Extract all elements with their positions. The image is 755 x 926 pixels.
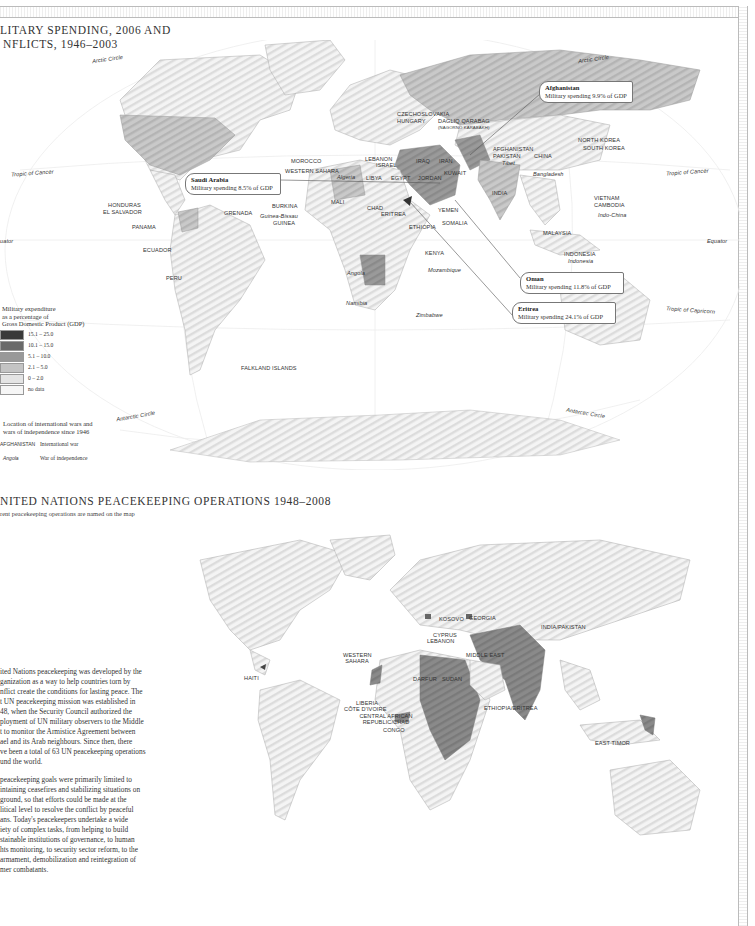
text-line: ployment of UN military observers to the… xyxy=(0,717,144,726)
independence-label-mozambique: Mozambique xyxy=(428,267,461,273)
legend-label: no data xyxy=(28,386,44,394)
callout-afghanistan: Afghanistan Military spending 9.9% of GD… xyxy=(539,81,633,103)
independence-label-zimbabwe: Zimbabwe xyxy=(416,312,443,318)
op-label-middle-east: MIDDLE EAST xyxy=(466,652,504,658)
war-label-kenya: KENYA xyxy=(425,250,444,256)
peacekeeping-description: ited Nations peacekeeping was developed … xyxy=(0,667,240,883)
war-label-mali: MALI xyxy=(331,199,344,205)
text-line: ited Nations peacekeeping was developed … xyxy=(0,667,142,676)
legend-heading: Military expenditure xyxy=(2,305,110,313)
callout-text: Military spending 11.8% of GDP xyxy=(526,283,611,290)
callout-text: Military spending 24.1% of GDP xyxy=(518,313,603,320)
war-label-panama: PANAMA xyxy=(132,224,156,230)
war-label-kuwait: KUWAIT xyxy=(444,170,466,176)
war-label-burkina: BURKINA xyxy=(272,203,298,209)
legend-label: 5.1 – 10.0 xyxy=(28,353,50,361)
war-label-yemen: YEMEN xyxy=(438,207,458,213)
legend-item: 2.1 – 5.0 xyxy=(0,363,110,374)
legend-swatch xyxy=(0,341,24,351)
header-decorative-bar xyxy=(0,6,745,18)
op-label-western-sahara: WESTERN SAHARA xyxy=(343,652,371,664)
op-label-central-african-republic-chad: CENTRAL AFRICAN REPUBLIC/CHAD xyxy=(356,713,416,725)
wars-legend-row: Angola War of independence xyxy=(0,455,110,463)
war-label-ethiopia: ETHIOPIA xyxy=(409,224,436,230)
war-label-eritrea: ERITREA xyxy=(381,211,406,217)
wars-legend-sample: Angola xyxy=(3,455,40,463)
text-line: hts monitoring, to security sector refor… xyxy=(0,845,138,854)
war-label-dagliq-qarabag: DAGLIQ QARABAG xyxy=(438,118,490,124)
war-label-malaysia: MALAYSIA xyxy=(543,230,571,236)
independence-label-namibia: Namibia xyxy=(346,300,367,306)
wars-legend-meaning: International war xyxy=(40,441,78,449)
war-label-nagorno-karabakh: (NAGORNO KARABAKH) xyxy=(438,125,489,130)
op-label-east-timor: EAST TIMOR xyxy=(595,740,630,746)
text-line: ael and its Arab neighbours. Since then,… xyxy=(0,737,132,746)
text-line: stainable institutions of governance, to… xyxy=(0,835,135,844)
op-label-ethiopia-eritrea: ETHIOPIA/ERITREA xyxy=(484,705,538,711)
legend-swatch xyxy=(0,330,24,340)
op-label-haiti: HAITI xyxy=(244,675,259,681)
legend-item: 10.1 – 15.0 xyxy=(0,341,110,352)
callout-eritrea: Eritrea Military spending 24.1% of GDP xyxy=(512,302,616,324)
wars-legend-sample: AFGHANISTAN xyxy=(0,441,40,449)
text-line: t to monitor the Armistice Agreement bet… xyxy=(0,727,135,736)
op-label-cote-divoire: CÔTE D'IVOIRE xyxy=(344,706,386,712)
independence-label-guinea-bissau: Guinea-Bissau xyxy=(260,213,298,219)
legend-label: 2.1 – 5.0 xyxy=(28,364,48,372)
war-label-honduras: HONDURAS xyxy=(108,202,141,208)
legend-heading: as a percentage of xyxy=(2,313,110,321)
op-label-darfur: DARFUR xyxy=(413,676,437,682)
war-label-peru: PERU xyxy=(166,275,182,281)
op-label-georgia: GEORGIA xyxy=(469,615,496,621)
text-line: armament, demobilization and reintegrati… xyxy=(0,855,136,864)
text-line: iety of complex tasks, from helping to b… xyxy=(0,825,128,834)
legend-heading: Gross Domestic Product (GDP) xyxy=(2,320,110,328)
callout-oman: Oman Military spending 11.8% of GDP xyxy=(520,272,624,294)
legend-label: 15.1 – 25.0 xyxy=(28,331,53,339)
legend-item: 5.1 – 10.0 xyxy=(0,352,110,363)
text-line: t UN peacekeeping mission was establishe… xyxy=(0,697,135,706)
text-line: intaining ceasefires and stabilizing sit… xyxy=(0,785,140,794)
paragraph-2: peacekeeping goals were primarily limite… xyxy=(0,775,240,875)
text-line: ground, so that efforts could be made at… xyxy=(0,795,127,804)
wars-legend-heading: Location of international wars and xyxy=(3,420,110,428)
wars-legend: Location of international wars and wars … xyxy=(0,420,110,462)
war-label-iraq: IRAQ xyxy=(416,158,430,164)
war-label-el-salvador: EL SALVADOR xyxy=(103,209,142,215)
legend-item: no data xyxy=(0,385,110,396)
callout-country: Oman xyxy=(526,275,618,283)
legend-swatch xyxy=(0,363,24,373)
war-label-iran: IRAN xyxy=(439,158,453,164)
wars-legend-heading: wars of independence since 1946 xyxy=(3,428,110,436)
war-label-pakistan: PAKISTAN xyxy=(493,153,521,159)
war-label-czechoslovakia: CZECHOSLOVAKIA xyxy=(397,111,449,117)
text-line: nflict create the conditions for lasting… xyxy=(0,687,143,696)
legend-label: 10.1 – 15.0 xyxy=(28,342,53,350)
war-label-falkland-islands: FALKLAND ISLANDS xyxy=(241,365,297,371)
map2-subtitle: rent peacekeeping operations are named o… xyxy=(0,510,135,517)
text-line: litical level to resolve the conflict by… xyxy=(0,805,134,814)
legend-swatch xyxy=(0,374,24,384)
independence-label-indonesia: Indonesia xyxy=(568,258,593,264)
text-line: mer combatants. xyxy=(0,865,48,874)
callout-saudi-arabia: Saudi Arabia Military spending 8.5% of G… xyxy=(185,173,281,195)
independence-label-algeria: Algeria xyxy=(337,174,355,180)
paragraph-1: ited Nations peacekeeping was developed … xyxy=(0,667,240,767)
war-label-cambodia: CAMBODIA xyxy=(594,202,625,208)
military-spending-world-map xyxy=(0,40,740,470)
equator-label-right: Equator xyxy=(707,238,727,244)
war-label-morocco: MOROCCO xyxy=(291,158,322,164)
op-label-sudan: SUDAN xyxy=(442,676,462,682)
wars-legend-row: AFGHANISTAN International war xyxy=(0,441,110,449)
war-label-israel: ISRAEL xyxy=(376,162,397,168)
war-label-libya: LIBYA xyxy=(366,175,382,181)
text-line: ans. Today's peacekeepers undertake a wi… xyxy=(0,815,128,824)
war-label-jordan: JORDAN xyxy=(418,175,442,181)
war-label-somalia: SOMALIA xyxy=(442,220,468,226)
independence-label-angola: Angola xyxy=(347,270,365,276)
war-label-grenada: GRENADA xyxy=(224,210,252,216)
independence-label-bangladesh: Bangladesh xyxy=(533,171,564,177)
wars-legend-meaning: War of independence xyxy=(40,455,87,463)
war-label-egypt: EGYPT xyxy=(391,175,410,181)
text-line: ve been a total of 63 UN peacekeeping op… xyxy=(0,747,145,756)
